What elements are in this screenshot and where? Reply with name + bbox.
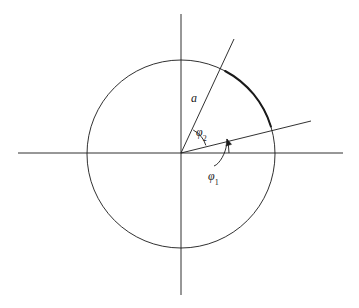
angle-label-phi1: φ1 xyxy=(208,170,219,185)
diagram-canvas xyxy=(0,0,359,308)
phi1-leader-line xyxy=(214,145,226,166)
angle-arc-phi1-arrowhead xyxy=(226,139,231,146)
radius-label: a xyxy=(191,92,197,104)
phi1-symbol: φ xyxy=(208,169,215,183)
phi2-symbol: φ xyxy=(196,125,203,139)
ray-phi2 xyxy=(181,39,234,153)
angle-label-phi2: φ2 xyxy=(196,126,207,141)
highlighted-arc xyxy=(225,71,271,127)
phi2-subscript: 2 xyxy=(203,134,207,143)
phi1-subscript: 1 xyxy=(215,178,219,187)
geometry-figure: a φ2 φ1 xyxy=(0,0,359,308)
